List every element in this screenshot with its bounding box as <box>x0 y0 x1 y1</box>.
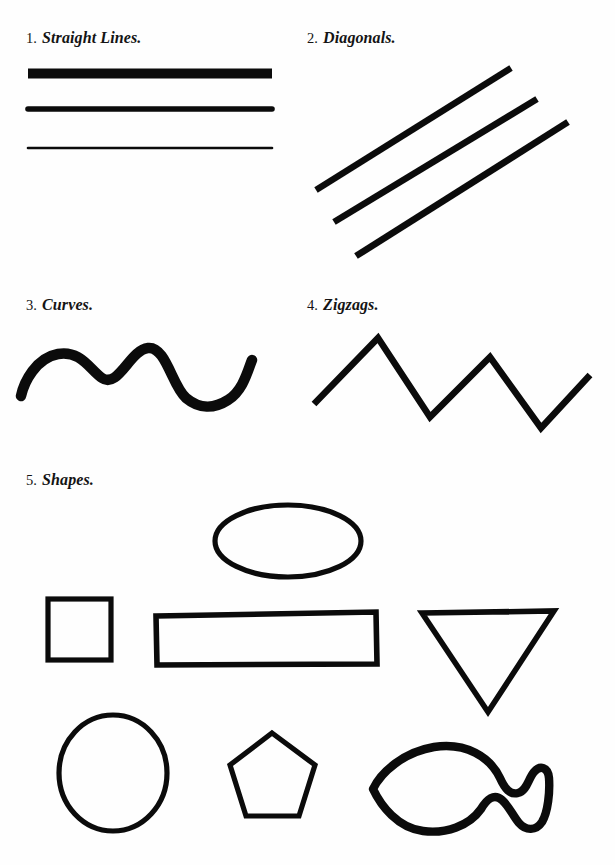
zigzag-line <box>314 338 590 428</box>
diagonal-line-1 <box>316 68 511 190</box>
section-heading-zigzags: 4.Zigzags. <box>307 297 379 313</box>
worksheet-artwork <box>0 0 615 865</box>
section-number: 4. <box>307 297 323 313</box>
figure-diagonals <box>316 68 568 256</box>
figure-straight-lines <box>28 74 272 149</box>
section-heading-diagonals: 2.Diagonals. <box>307 30 396 46</box>
section-heading-straight-lines: 1.Straight Lines. <box>26 30 141 46</box>
shape-square <box>48 599 111 660</box>
section-number: 1. <box>26 30 42 46</box>
section-title: Diagonals. <box>323 29 396 46</box>
worksheet-page: 1.Straight Lines. 2.Diagonals. 3.Curves.… <box>0 0 615 865</box>
section-heading-shapes: 5.Shapes. <box>26 472 94 488</box>
shape-pentagon <box>230 733 315 816</box>
shape-rectangle <box>156 612 377 665</box>
shape-triangle <box>422 611 554 712</box>
section-title: Shapes. <box>42 471 94 488</box>
section-heading-curves: 3.Curves. <box>26 297 93 313</box>
section-title: Curves. <box>42 296 93 313</box>
section-number: 2. <box>307 30 323 46</box>
shape-circle <box>59 715 167 831</box>
figure-zigzags <box>314 338 590 428</box>
diagonal-line-2 <box>334 99 537 222</box>
section-number: 5. <box>26 472 42 488</box>
diagonal-line-3 <box>356 122 568 256</box>
figure-shapes <box>48 505 554 832</box>
wavy-curve <box>21 348 252 407</box>
shape-ellipse <box>215 505 361 577</box>
figure-curves <box>21 348 252 407</box>
section-title: Straight Lines. <box>42 29 141 46</box>
shape-fish <box>373 746 549 832</box>
section-title: Zigzags. <box>323 296 378 313</box>
section-number: 3. <box>26 297 42 313</box>
